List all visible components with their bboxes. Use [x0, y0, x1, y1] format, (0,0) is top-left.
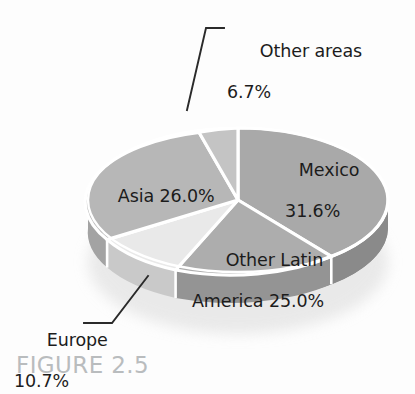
slice-label-other-areas-line1: Other areas: [260, 41, 362, 61]
leader-line-other-areas: [187, 28, 224, 110]
pie-chart: Other areas 6.7% Mexico 31.6% Other Lati…: [0, 0, 415, 394]
slice-label-other-latin-line1: Other Latin: [226, 250, 323, 270]
slice-label-other-latin-line2: America 25.0%: [192, 291, 324, 312]
figure-container: Other areas 6.7% Mexico 31.6% Other Lati…: [0, 0, 415, 394]
slice-label-mexico-line1: Mexico: [299, 160, 360, 180]
slice-label-other-latin-america: Other Latin America 25.0%: [192, 229, 324, 353]
figure-caption: FIGURE 2.5: [16, 352, 149, 378]
slice-label-asia-line1: Asia 26.0%: [118, 186, 215, 206]
slice-label-europe-line1: Europe: [47, 330, 108, 350]
slice-label-other-areas: Other areas 6.7%: [227, 20, 362, 144]
slice-label-mexico-line2: 31.6%: [266, 201, 359, 222]
slice-label-other-areas-line2: 6.7%: [227, 82, 362, 103]
slice-label-asia: Asia 26.0%: [85, 165, 215, 227]
